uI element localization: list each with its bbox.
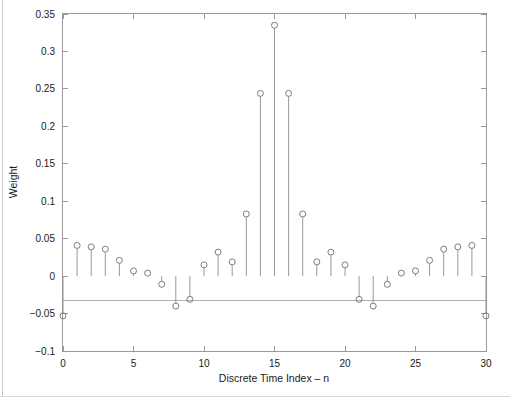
stem-marker-circle-icon (215, 249, 221, 255)
stem-marker-circle-icon (427, 257, 433, 263)
stem-marker-circle-icon (74, 242, 80, 248)
y-tick-label: 0.15 (36, 158, 56, 169)
stem-point (441, 246, 447, 276)
stem-marker-circle-icon (88, 244, 94, 250)
stem-point (286, 90, 292, 276)
stem-marker-circle-icon (272, 22, 278, 28)
stem-marker-circle-icon (187, 296, 193, 302)
stem-marker-circle-icon (102, 246, 108, 252)
stem-point (159, 276, 165, 287)
y-tick-label: 0.35 (36, 9, 56, 20)
x-tick-label: 0 (60, 358, 66, 369)
stem-marker-circle-icon (370, 303, 376, 309)
x-tick-label: 10 (198, 358, 210, 369)
stem-marker-circle-icon (384, 281, 390, 287)
stem-point (455, 244, 461, 276)
stem-marker-circle-icon (201, 262, 207, 268)
stem-point (201, 262, 207, 276)
stem-marker-circle-icon (342, 262, 348, 268)
stem-marker-circle-icon (243, 211, 249, 217)
stem-marker-circle-icon (286, 90, 292, 96)
y-tick-label: 0.05 (36, 233, 56, 244)
stem-marker-circle-icon (328, 249, 334, 255)
y-tick-label: 0.25 (36, 83, 56, 94)
stem-point (398, 270, 404, 276)
x-tick-label: 5 (131, 358, 137, 369)
stem-marker-circle-icon (441, 246, 447, 252)
stem-point (131, 268, 137, 276)
stem-series (60, 22, 489, 319)
stem-point (314, 259, 320, 276)
stem-point (300, 211, 306, 276)
y-tick-label: 0.1 (41, 196, 55, 207)
x-tick-label: 25 (410, 358, 422, 369)
stem-marker-circle-icon (145, 270, 151, 276)
stem-point (370, 276, 376, 309)
stem-marker-circle-icon (229, 259, 235, 265)
stem-marker-circle-icon (356, 296, 362, 302)
stem-point (102, 246, 108, 276)
stem-marker-circle-icon (116, 257, 122, 263)
stem-point (272, 22, 278, 276)
y-tick-label: 0.3 (41, 46, 55, 57)
stem-point (243, 211, 249, 276)
stem-marker-circle-icon (398, 270, 404, 276)
stem-marker-circle-icon (300, 211, 306, 217)
y-tick-label: 0 (49, 271, 55, 282)
y-axis-label: Weight (7, 166, 19, 199)
stem-point (483, 276, 489, 319)
y-tick-label: −0.1 (35, 346, 55, 357)
x-axis-label: Discrete Time Index – n (219, 372, 329, 384)
x-tick-label: 20 (339, 358, 351, 369)
figure-canvas: −0.1−0.0500.050.10.150.20.250.30.35 0510… (0, 0, 510, 408)
x-axis-ticks: 051015202530 (60, 14, 492, 369)
stem-marker-circle-icon (159, 281, 165, 287)
stem-marker-circle-icon (314, 259, 320, 265)
stem-point (187, 276, 193, 302)
stem-marker-circle-icon (131, 268, 137, 274)
y-tick-label: 0.2 (41, 121, 55, 132)
stem-point (60, 276, 66, 319)
stem-marker-circle-icon (469, 242, 475, 248)
x-tick-label: 30 (480, 358, 492, 369)
stem-point (469, 242, 475, 276)
stem-point (229, 259, 235, 276)
stem-plot: −0.1−0.0500.050.10.150.20.250.30.35 0510… (0, 0, 510, 408)
stem-point (74, 242, 80, 276)
stem-point (173, 276, 179, 309)
stem-point (356, 276, 362, 302)
stem-point (257, 90, 263, 276)
stem-marker-circle-icon (257, 90, 263, 96)
stem-marker-circle-icon (455, 244, 461, 250)
stem-point (427, 257, 433, 276)
stem-point (116, 257, 122, 276)
stem-point (413, 268, 419, 276)
stem-point (215, 249, 221, 276)
stem-point (384, 276, 390, 287)
stem-marker-circle-icon (173, 303, 179, 309)
stem-point (328, 249, 334, 276)
y-tick-label: −0.05 (30, 308, 56, 319)
stem-point (342, 262, 348, 276)
x-tick-label: 15 (269, 358, 281, 369)
stem-marker-circle-icon (413, 268, 419, 274)
stem-point (145, 270, 151, 276)
y-axis-ticks: −0.1−0.0500.050.10.150.20.250.30.35 (30, 9, 486, 357)
stem-point (88, 244, 94, 276)
